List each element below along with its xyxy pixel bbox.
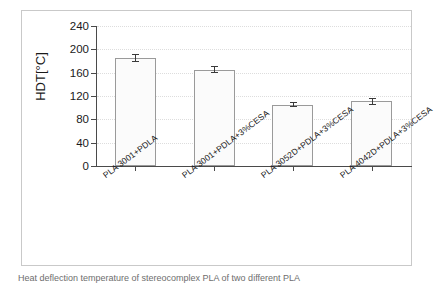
x-tick-mark [214,167,215,171]
gridline [97,49,411,50]
y-tick-label: 160 [70,67,89,79]
error-bar-cap-bottom [290,106,297,107]
error-bar-cap-bottom [211,72,218,73]
error-bar-cap-top [211,66,218,67]
y-tick-label: 80 [76,113,89,125]
y-tick-label: 0 [83,160,89,172]
y-tick-mark [91,73,96,74]
error-bar-cap-top [369,98,376,99]
error-bar-cap-top [290,102,297,103]
y-tick-mark [91,49,96,50]
plot-inner: 24020016012080400 PLA 3001+PDLAPLA 3001+… [96,26,411,166]
x-tick-mark [135,167,136,171]
error-bar [135,54,136,62]
x-axis-line [96,166,412,167]
y-tick-mark [91,119,96,120]
error-bar [293,102,294,107]
y-tick-mark [91,26,96,27]
x-tick-mark [372,167,373,171]
error-bar [372,98,373,105]
figure-frame: HDT[°C] 24020016012080400 PLA 3001+PDLAP… [21,10,412,266]
y-tick-label: 240 [70,20,89,32]
y-tick-mark [91,143,96,144]
y-tick-label: 200 [70,43,89,55]
y-tick-label: 120 [70,90,89,102]
error-bar-cap-top [132,54,139,55]
figure-caption: Heat deflection temperature of stereocom… [18,273,418,283]
x-tick-mark [293,167,294,171]
y-tick-mark [91,166,96,167]
y-tick-mark [91,96,96,97]
error-bar-cap-bottom [132,61,139,62]
y-axis-label: HDT[°C] [33,32,48,122]
caption-text: Heat deflection temperature of stereocom… [18,273,300,283]
gridline [97,26,411,27]
error-bar [214,66,215,73]
error-bar-cap-bottom [369,104,376,105]
plot-area: 24020016012080400 PLA 3001+PDLAPLA 3001+… [96,26,411,166]
y-tick-label: 40 [76,137,89,149]
